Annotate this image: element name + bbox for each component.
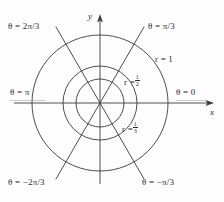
radius-label-one-half-fraction: 12 (135, 74, 139, 88)
radius-label-one: r = 1 (155, 55, 173, 64)
x-axis (14, 100, 214, 106)
angle-label-zero: θ = 0 (176, 88, 195, 97)
radius-label-one-half: r =12 (124, 74, 140, 88)
angle-label-pi: θ = π (10, 88, 29, 97)
angle-label-minus-pi-over-three: θ = −π/3 (142, 178, 174, 187)
radius-label-one-third: r =13 (122, 121, 138, 135)
radius-label-one-third-prefix: r = (122, 124, 133, 134)
angle-label-two-pi-over-three: θ = 2π/3 (8, 22, 40, 31)
angle-label-minus-two-pi-over-three: θ = −2π/3 (8, 178, 45, 187)
angle-label-pi-over-three: θ = π/3 (148, 22, 175, 31)
radius-label-one-half-denominator: 2 (135, 81, 139, 87)
y-axis-label: y (88, 12, 92, 21)
x-axis-label: x (210, 108, 214, 117)
radius-label-one-half-prefix: r = (124, 77, 135, 87)
polar-grid-figure: θ = 2π/3 θ = π/3 θ = π θ = 0 θ = −2π/3 θ… (0, 0, 224, 202)
radius-label-one-third-denominator: 3 (133, 128, 137, 134)
radius-label-one-third-fraction: 13 (133, 121, 137, 135)
